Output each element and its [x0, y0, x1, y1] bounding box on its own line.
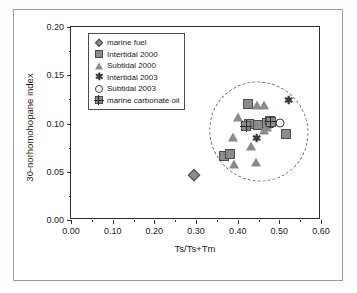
x-tick [321, 220, 322, 224]
y-minor-tick [69, 196, 71, 197]
x-minor-tick [217, 220, 218, 222]
legend-label: Subtidal 2000 [107, 60, 156, 71]
y-minor-tick [69, 148, 71, 149]
legend-item: Subtidal 2003 [93, 83, 179, 95]
data-point [275, 118, 284, 127]
legend-item: Intertidal 2000 [93, 49, 179, 61]
y-tick-label: 0.00 [46, 215, 64, 225]
y-tick [67, 124, 71, 125]
plot-area: 0.000.050.100.150.20 0.000.100.200.300.4… [70, 26, 320, 219]
open-circle-icon [93, 83, 104, 94]
data-point [266, 117, 276, 127]
x-tick-label: 0.40 [229, 226, 247, 236]
legend-item: marine carbonate oil [93, 95, 179, 107]
x-minor-tick [92, 220, 93, 222]
triangle-icon [93, 60, 104, 71]
y-tick-label: 0.15 [46, 70, 64, 80]
x-tick [113, 220, 114, 224]
data-point [229, 160, 239, 169]
data-point: ✱ [252, 133, 261, 144]
data-point [233, 112, 243, 121]
y-tick [67, 27, 71, 28]
y-tick-label: 0.20 [46, 22, 64, 32]
x-tick [279, 220, 280, 224]
y-minor-tick [69, 51, 71, 52]
x-tick-label: 0.00 [62, 226, 80, 236]
data-point [188, 168, 200, 180]
x-minor-tick [175, 220, 176, 222]
legend-label: Intertidal 2003 [107, 72, 158, 83]
y-tick [67, 75, 71, 76]
legend-item: Subtidal 2000 [93, 60, 179, 72]
diamond-icon [93, 37, 104, 48]
x-tick [196, 220, 197, 224]
asterisk-icon: ✱ [93, 72, 104, 83]
data-point [281, 129, 291, 139]
y-tick-label: 0.05 [46, 167, 64, 177]
data-point [225, 149, 235, 159]
x-minor-tick [259, 220, 260, 222]
data-point [241, 121, 251, 131]
x-tick-label: 0.30 [187, 226, 205, 236]
x-tick-label: 0.50 [271, 226, 289, 236]
legend-item: ✱ Intertidal 2003 [93, 72, 179, 84]
data-point [251, 158, 261, 167]
legend-item: marine fuel [93, 37, 179, 49]
x-minor-tick [134, 220, 135, 222]
x-tick-label: 0.10 [104, 226, 122, 236]
x-tick [71, 220, 72, 224]
legend: marine fuel Intertidal 2000 Subtidal 200… [88, 33, 185, 110]
data-point [228, 133, 238, 142]
x-tick-label: 0.60 [312, 226, 330, 236]
y-minor-tick [69, 99, 71, 100]
x-minor-tick [300, 220, 301, 222]
data-point: ✱ [284, 96, 293, 107]
legend-label: marine carbonate oil [107, 95, 179, 106]
legend-label: marine fuel [107, 37, 147, 48]
x-tick [238, 220, 239, 224]
square-icon [93, 49, 104, 60]
data-point [259, 101, 269, 110]
y-tick [67, 172, 71, 173]
legend-label: Intertidal 2000 [107, 49, 158, 60]
legend-label: Subtidal 2003 [107, 83, 156, 94]
x-tick [154, 220, 155, 224]
crossed-square-icon [93, 95, 104, 106]
y-axis-title: 30-norhomohopane index [24, 33, 35, 223]
x-axis-title: Ts/Ts+Tm [70, 243, 320, 254]
x-tick-label: 0.20 [146, 226, 164, 236]
figure: 30-norhomohopane index Ts/Ts+Tm 0.000.05… [0, 0, 357, 293]
y-tick-label: 0.10 [46, 119, 64, 129]
